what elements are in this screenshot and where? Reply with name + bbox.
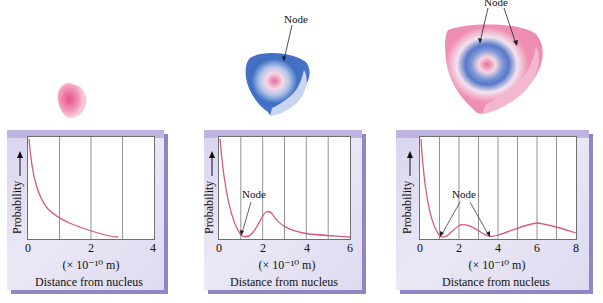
node-pointer-2s [284,25,292,60]
x-axis-label-3s: Distance from nucleus [442,275,550,290]
node-label-graph-2s: Node [242,188,266,200]
x-tick: 0 [25,241,31,256]
x-axis-label-2s: Distance from nucleus [230,275,338,290]
x-axis-unit-3s: (× 10⁻¹⁰ m) [469,258,526,273]
x-tick: 0 [216,241,222,256]
x-tick: 0 [417,241,423,256]
panel-1s: Probability 0 2 4 (× 10⁻¹⁰ m) Distance f… [7,130,164,290]
x-tick: 2 [88,241,94,256]
x-tick: 2 [456,241,462,256]
x-tick: 4 [495,241,501,256]
y-axis-label-2s: Probability [202,181,217,234]
probability-curve-3s [420,137,576,239]
x-tick: 8 [573,241,579,256]
panel-3s: Node Probability 0 2 4 6 8 (× 10⁻¹⁰ m) D… [396,130,589,290]
node-label-3s: Node [484,0,508,8]
x-tick: 2 [260,241,266,256]
x-axis-label-1s: Distance from nucleus [35,275,143,290]
x-axis-unit-1s: (× 10⁻¹⁰ m) [63,258,120,273]
x-tick: 6 [347,241,353,256]
plot-area-3s [419,136,577,240]
probability-curve-2s [219,137,350,239]
y-axis-label-3s: Probability [400,181,415,234]
plot-area-1s [27,136,155,240]
node-label-2s: Node [284,13,308,25]
node-label-graph-3s: Node [452,188,476,200]
panel-2s: Node Probability 0 2 4 6 (× 10⁻¹⁰ m) Dis… [204,130,362,290]
y-axis-label-1s: Probability [10,181,25,234]
x-tick: 4 [150,241,156,256]
plot-area-2s [218,136,351,240]
probability-curve-1s [28,137,154,239]
x-axis-unit-2s: (× 10⁻¹⁰ m) [259,258,316,273]
x-tick: 6 [534,241,540,256]
x-tick: 4 [304,241,310,256]
